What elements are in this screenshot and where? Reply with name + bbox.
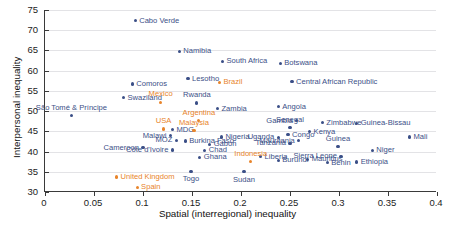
data-point bbox=[326, 161, 329, 164]
data-point-label: USA bbox=[156, 117, 172, 125]
gridline bbox=[45, 50, 436, 51]
y-tick-mark bbox=[45, 91, 49, 92]
data-point-label: Lesotho bbox=[192, 75, 219, 83]
y-axis-tick-label: 50 bbox=[0, 106, 38, 116]
x-tick-mark bbox=[241, 192, 242, 196]
data-point-label: Zambia bbox=[221, 105, 246, 113]
data-point bbox=[297, 139, 300, 142]
data-point-label: Togo bbox=[183, 175, 199, 183]
scatter-chart-figure: Cabo VerdeNamibiaSouth AfricaBotswanaCen… bbox=[0, 0, 455, 225]
data-point bbox=[162, 127, 165, 130]
data-point-label: Niger bbox=[376, 146, 394, 154]
data-point-label: Côte d'Ivoire bbox=[126, 146, 168, 154]
y-tick-mark bbox=[45, 71, 49, 72]
data-point bbox=[134, 19, 137, 22]
data-point-label: Congo bbox=[292, 131, 314, 139]
data-point bbox=[122, 96, 125, 99]
data-point bbox=[70, 114, 73, 117]
data-point bbox=[290, 80, 293, 83]
data-point bbox=[242, 170, 245, 173]
data-point bbox=[198, 156, 201, 159]
data-point-label: Burundi bbox=[282, 156, 308, 164]
data-point bbox=[218, 81, 221, 84]
data-point-label: South Africa bbox=[226, 57, 267, 65]
x-tick-mark bbox=[143, 192, 144, 196]
x-axis-tick-label: 0.25 bbox=[269, 198, 309, 208]
data-point bbox=[355, 122, 358, 125]
data-point bbox=[249, 160, 252, 163]
data-point-label: Central African Republic bbox=[296, 78, 377, 86]
data-point-label: MOZ bbox=[155, 136, 172, 144]
x-axis-tick-label: 0.15 bbox=[171, 198, 211, 208]
plot-area: Cabo VerdeNamibiaSouth AfricaBotswanaCen… bbox=[44, 10, 436, 192]
data-point bbox=[355, 160, 358, 163]
x-axis-tick-label: 0.1 bbox=[122, 198, 162, 208]
data-point-label: Tanzania bbox=[256, 139, 286, 147]
y-axis-tick-label: 70 bbox=[0, 25, 38, 35]
y-tick-mark bbox=[45, 152, 49, 153]
data-point bbox=[186, 77, 189, 80]
data-point-label: Argentina bbox=[183, 109, 216, 117]
data-point bbox=[371, 149, 374, 152]
x-tick-mark bbox=[437, 192, 438, 196]
x-tick-mark bbox=[45, 192, 46, 196]
x-axis-tick-label: 0 bbox=[24, 198, 64, 208]
data-point-label: Benin bbox=[331, 159, 350, 167]
data-point bbox=[195, 101, 198, 104]
data-point bbox=[336, 145, 339, 148]
data-point-label: Rwanda bbox=[183, 91, 211, 99]
data-point bbox=[408, 135, 411, 138]
x-tick-mark bbox=[339, 192, 340, 196]
y-tick-mark bbox=[45, 172, 49, 173]
y-tick-mark bbox=[45, 131, 49, 132]
data-point-label: Brazil bbox=[223, 78, 242, 86]
data-point-label: São Tomé & Príncipe bbox=[36, 104, 107, 112]
data-point bbox=[288, 142, 291, 145]
data-point bbox=[189, 170, 192, 173]
y-tick-mark bbox=[45, 30, 49, 31]
x-axis-label: Spatial (interregional) inequality bbox=[0, 208, 455, 219]
y-axis-tick-label: 35 bbox=[0, 167, 38, 177]
x-axis-tick-label: 0.4 bbox=[416, 198, 455, 208]
data-point-label: Botswana bbox=[284, 59, 317, 67]
data-point bbox=[178, 50, 181, 53]
x-axis-tick-label: 0.3 bbox=[318, 198, 358, 208]
gridline bbox=[45, 71, 436, 72]
x-tick-mark bbox=[192, 192, 193, 196]
data-point-label: Angola bbox=[282, 103, 306, 111]
y-axis-tick-label: 40 bbox=[0, 147, 38, 157]
y-axis-tick-label: 55 bbox=[0, 86, 38, 96]
data-point bbox=[159, 101, 162, 104]
data-point-label: Ethiopia bbox=[361, 158, 388, 166]
y-axis-tick-label: 65 bbox=[0, 45, 38, 55]
y-axis-tick-label: 75 bbox=[0, 5, 38, 15]
x-tick-mark bbox=[94, 192, 95, 196]
data-point bbox=[306, 158, 309, 161]
data-point bbox=[175, 139, 178, 142]
y-axis-tick-label: 60 bbox=[0, 66, 38, 76]
y-tick-mark bbox=[45, 50, 49, 51]
data-point-label: Sudan bbox=[233, 176, 255, 184]
data-point-label: Spain bbox=[141, 183, 160, 191]
data-point-label: Comoros bbox=[136, 80, 167, 88]
x-tick-mark bbox=[388, 192, 389, 196]
data-point bbox=[131, 82, 134, 85]
x-axis-tick-label: 0.2 bbox=[220, 198, 260, 208]
data-point-label: Guinea-Bissau bbox=[361, 119, 411, 127]
x-tick-mark bbox=[290, 192, 291, 196]
data-point-label: Cabo Verde bbox=[139, 17, 179, 25]
data-point bbox=[221, 60, 224, 63]
data-point-label: Ghana bbox=[204, 153, 227, 161]
y-axis-tick-label: 45 bbox=[0, 126, 38, 136]
gridline bbox=[45, 30, 436, 31]
x-axis-tick-label: 0.05 bbox=[73, 198, 113, 208]
data-point bbox=[136, 186, 139, 189]
data-point bbox=[216, 107, 219, 110]
data-point-label: Mexico bbox=[149, 90, 173, 98]
data-point-label: Namibia bbox=[183, 47, 211, 55]
data-point bbox=[171, 148, 174, 151]
data-point bbox=[184, 139, 187, 142]
data-point bbox=[277, 105, 280, 108]
gridline bbox=[45, 91, 436, 92]
y-tick-mark bbox=[45, 10, 49, 11]
